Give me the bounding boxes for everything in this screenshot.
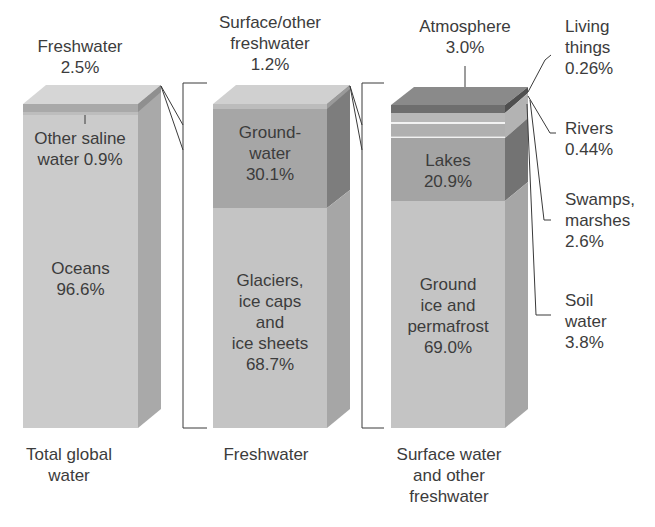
other-saline-label: Other saline water 0.9% bbox=[21, 128, 139, 170]
callout-lines bbox=[527, 55, 556, 315]
living-things-label: Living things 0.26% bbox=[565, 16, 655, 79]
callout-living bbox=[528, 55, 551, 92]
category-freshwater: Freshwater bbox=[206, 444, 326, 465]
bar3-rivers-band bbox=[391, 113, 505, 122]
bar3-atmosphere-band bbox=[391, 105, 505, 113]
category-total-global-water: Total global water bbox=[14, 444, 124, 486]
bar1-side-face bbox=[138, 85, 161, 428]
callout-rivers bbox=[528, 96, 556, 133]
swamps-label: Swamps, marshes 2.6% bbox=[565, 189, 655, 252]
rivers-label: Rivers 0.44% bbox=[565, 118, 655, 160]
category-surface-water: Surface water and other freshwater bbox=[374, 444, 524, 507]
callout-soil bbox=[527, 104, 551, 315]
connector-2 bbox=[350, 83, 384, 428]
bar2-side-glaciers bbox=[327, 190, 350, 428]
bar2-top-face bbox=[213, 85, 350, 104]
atmosphere-label: Atmosphere 3.0% bbox=[400, 16, 530, 58]
soil-water-label: Soil water 3.8% bbox=[565, 290, 655, 353]
bar2-surface-band bbox=[213, 104, 327, 109]
bar-surface-water bbox=[391, 66, 528, 428]
bar1-saline-band bbox=[23, 112, 138, 115]
freshwater-top-label: Freshwater 2.5% bbox=[20, 36, 140, 78]
connector-1 bbox=[161, 83, 207, 428]
groundwater-label: Ground- water 30.1% bbox=[213, 122, 327, 185]
oceans-label: Oceans 96.6% bbox=[23, 258, 138, 300]
bar3-swamps-band bbox=[391, 124, 505, 137]
ground-ice-label: Ground ice and permafrost 69.0% bbox=[391, 274, 505, 358]
bar3-side-ground-ice bbox=[505, 182, 528, 428]
glaciers-label: Glaciers, ice caps and ice sheets 68.7% bbox=[213, 270, 327, 375]
bar3-top-face bbox=[391, 87, 528, 105]
lakes-label: Lakes 20.9% bbox=[391, 150, 505, 192]
bar1-freshwater-band bbox=[23, 104, 138, 112]
bar1-top-face bbox=[23, 85, 161, 104]
surface-other-top-label: Surface/other freshwater 1.2% bbox=[208, 12, 332, 75]
